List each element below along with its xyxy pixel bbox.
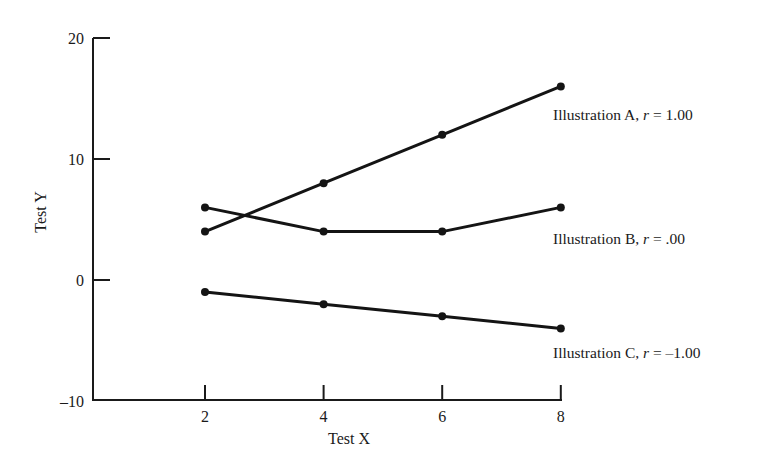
data-point [438, 312, 446, 320]
data-point [201, 228, 209, 236]
data-point [557, 82, 565, 90]
x-axis-title: Test X [328, 430, 370, 447]
x-tick-label: 8 [557, 408, 565, 425]
series-c [201, 288, 565, 332]
series-b [201, 203, 565, 235]
series-label-b-name: Illustration B, [553, 230, 643, 247]
series-label-c-value: = –1.00 [649, 344, 701, 361]
series-label-a-name: Illustration A, [553, 106, 643, 123]
x-tick-label: 2 [201, 408, 209, 425]
y-axis-title: Test Y [32, 191, 49, 233]
x-tick-label: 4 [320, 408, 328, 425]
series-label-b-value: = .00 [649, 230, 685, 247]
series-label-b: Illustration B, r = .00 [553, 230, 685, 247]
y-tick-label: –10 [59, 393, 84, 410]
series-a [201, 82, 565, 235]
series-label-c: Illustration C, r = –1.00 [553, 344, 701, 361]
series-label-c-name: Illustration C, [553, 344, 643, 361]
data-point [201, 288, 209, 296]
y-tick-label: 0 [76, 272, 84, 289]
x-ticks: 2468 [201, 385, 565, 425]
data-point [320, 228, 328, 236]
correlation-chart: –1001020 2468 Test Y Test X Illustration… [0, 0, 765, 470]
series-line-c [205, 292, 561, 328]
x-axis: 2468 [92, 385, 565, 425]
series-line-a [205, 86, 561, 231]
data-point [320, 300, 328, 308]
series-label-a: Illustration A, r = 1.00 [553, 106, 693, 123]
data-point [320, 179, 328, 187]
data-point [438, 131, 446, 139]
data-point [438, 228, 446, 236]
data-point [557, 324, 565, 332]
x-tick-label: 6 [438, 408, 446, 425]
series-label-a-value: = 1.00 [649, 106, 693, 123]
y-axis: –1001020 [59, 30, 110, 410]
y-tick-label: 10 [68, 151, 84, 168]
data-point [557, 203, 565, 211]
y-tick-label: 20 [68, 30, 84, 47]
data-point [201, 203, 209, 211]
data-series [201, 82, 565, 332]
y-ticks: –1001020 [59, 30, 110, 410]
